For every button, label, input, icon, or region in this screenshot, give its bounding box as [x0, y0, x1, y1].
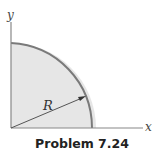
y-axis-label: y	[6, 8, 14, 22]
radius-label: R	[42, 98, 53, 113]
figure-canvas: y x R Problem 7.24	[0, 0, 164, 159]
figure-caption: Problem 7.24	[0, 136, 164, 151]
x-axis-label: x	[145, 120, 152, 134]
